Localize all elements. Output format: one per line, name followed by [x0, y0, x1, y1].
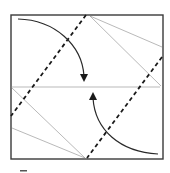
origami-diagram [0, 0, 170, 173]
step-marker [20, 170, 27, 172]
